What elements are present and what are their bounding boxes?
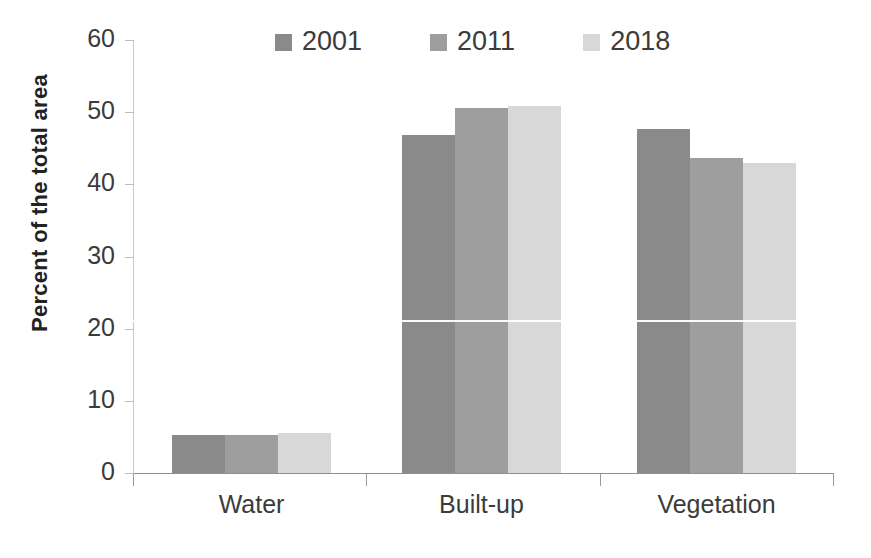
y-tick-label-30: 30 — [55, 243, 115, 268]
y-tick-label-0: 0 — [55, 459, 115, 484]
bar-water-2011 — [225, 435, 278, 473]
x-tick-3 — [833, 474, 834, 486]
x-axis-label-water: Water — [152, 492, 352, 517]
bar-built-up-2018 — [508, 106, 561, 473]
plot-area — [133, 40, 833, 473]
x-tick-2 — [600, 474, 601, 486]
bar-vegetation-2011 — [690, 158, 743, 473]
bar-vegetation-2018 — [743, 163, 796, 473]
x-tick-0 — [133, 474, 134, 486]
y-tick-label-40: 40 — [55, 170, 115, 195]
y-tick-label-20: 20 — [55, 315, 115, 340]
bar-chart: 2001 2011 2018 Percent of the total area… — [0, 0, 871, 558]
bar-built-up-2011 — [455, 108, 508, 473]
y-tick-label-50: 50 — [55, 98, 115, 123]
y-tick-label-60: 60 — [55, 26, 115, 51]
x-axis-line — [133, 473, 834, 474]
bar-water-2018 — [278, 433, 331, 473]
x-axis-label-built-up: Built-up — [382, 492, 582, 517]
y-tick-label-10: 10 — [55, 387, 115, 412]
bar-built-up-2001 — [402, 135, 455, 473]
bar-vegetation-2001 — [637, 129, 690, 473]
x-axis-label-vegetation: Vegetation — [617, 492, 817, 517]
x-tick-1 — [366, 474, 367, 486]
bar-water-2001 — [172, 435, 225, 473]
y-axis-title: Percent of the total area — [27, 53, 53, 353]
